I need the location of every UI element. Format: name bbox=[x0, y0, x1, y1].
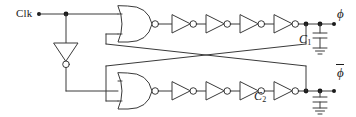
capacitor-c1-label: C1 bbox=[299, 33, 311, 47]
phi-bar-label: ϕ bbox=[337, 66, 344, 79]
phi-bar-overbar-glyph: ϕ bbox=[337, 66, 344, 79]
phi-terminal-dot bbox=[332, 22, 336, 26]
nor-gate-bottom-body bbox=[118, 73, 152, 109]
c1-subscript: 1 bbox=[307, 38, 311, 47]
nor-gate-bottom-bubble bbox=[152, 88, 159, 95]
capacitor-c2 bbox=[313, 91, 327, 114]
capacitor-c2-label: C2 bbox=[254, 90, 266, 104]
clk-inverter-bubble bbox=[63, 61, 70, 68]
phibar-terminal-dot bbox=[332, 89, 336, 93]
inverter-bottom-2 bbox=[206, 82, 224, 100]
bottom-delay-chain bbox=[172, 82, 334, 100]
clk-inverter bbox=[54, 14, 118, 91]
inverter-bottom-1 bbox=[172, 82, 190, 100]
inverter-top-4 bbox=[274, 15, 292, 33]
inverter-top-2-bubble bbox=[224, 21, 231, 28]
inverter-bottom-2-bubble bbox=[224, 88, 231, 95]
nor-gate-top-body bbox=[118, 6, 152, 42]
c1-name: C bbox=[299, 32, 307, 46]
inverter-top-1 bbox=[172, 15, 190, 33]
ground-symbol-c2 bbox=[313, 108, 327, 114]
inverter-bottom-4-bubble bbox=[292, 88, 299, 95]
inverter-top-1-bubble bbox=[190, 21, 197, 28]
clk-label: Clk bbox=[16, 8, 33, 19]
nor-gate-bottom bbox=[118, 73, 172, 109]
inverter-bottom-1-bubble bbox=[190, 88, 197, 95]
c2-name: C bbox=[254, 89, 262, 103]
inverter-top-4-bubble bbox=[292, 21, 299, 28]
circuit-diagram: Clk ϕ ϕ C1 C2 bbox=[0, 0, 356, 117]
c2-subscript: 2 bbox=[262, 95, 266, 104]
top-delay-chain bbox=[172, 15, 334, 33]
phi-label: ϕ bbox=[337, 7, 344, 20]
inverter-top-3 bbox=[240, 15, 258, 33]
ground-symbol-c1 bbox=[313, 48, 327, 54]
clk-inverter-triangle bbox=[54, 43, 78, 61]
inverter-bottom-4 bbox=[274, 82, 292, 100]
nor-gate-top bbox=[118, 6, 172, 42]
capacitor-c1 bbox=[313, 24, 327, 54]
inverter-top-3-bubble bbox=[258, 21, 265, 28]
clk-input-net bbox=[37, 12, 118, 17]
circuit-schematic-canvas bbox=[0, 0, 356, 117]
inverter-top-2 bbox=[206, 15, 224, 33]
nor-gate-top-bubble bbox=[152, 21, 159, 28]
